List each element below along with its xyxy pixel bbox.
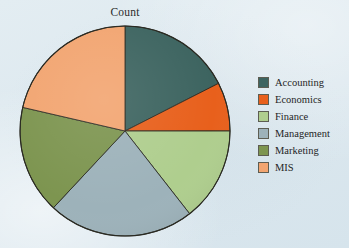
legend-swatch-management — [258, 128, 269, 139]
legend-label: Marketing — [275, 145, 319, 157]
legend-item-marketing[interactable]: Marketing — [258, 142, 349, 159]
legend-swatch-finance — [258, 111, 269, 122]
legend-swatch-economics — [258, 94, 269, 105]
pie-chart-figure: Count AccountingEconomicsFinanceManageme… — [0, 0, 349, 248]
pie-svg — [0, 0, 250, 248]
legend-item-accounting[interactable]: Accounting — [258, 74, 349, 91]
legend-item-management[interactable]: Management — [258, 125, 349, 142]
legend-swatch-accounting — [258, 77, 269, 88]
pie-shading-overlay — [20, 26, 230, 236]
legend-item-finance[interactable]: Finance — [258, 108, 349, 125]
pie-plot-area — [0, 0, 250, 248]
legend-label: Economics — [275, 94, 322, 106]
legend-label: MIS — [275, 162, 294, 174]
legend-label: Management — [275, 128, 330, 140]
legend-swatch-mis — [258, 162, 269, 173]
legend-swatch-marketing — [258, 145, 269, 156]
legend-item-mis[interactable]: MIS — [258, 159, 349, 176]
legend-item-economics[interactable]: Economics — [258, 91, 349, 108]
legend-label: Finance — [275, 111, 308, 123]
legend-label: Accounting — [275, 77, 324, 89]
legend: AccountingEconomicsFinanceManagementMark… — [258, 74, 349, 176]
